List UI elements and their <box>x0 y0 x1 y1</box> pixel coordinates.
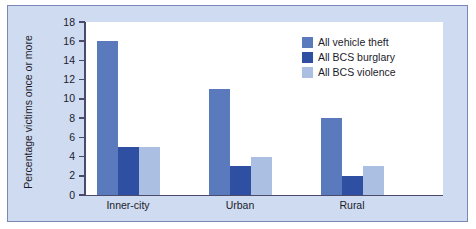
bar <box>139 147 160 195</box>
bar <box>209 89 230 195</box>
legend-swatch-vehicle-theft-icon <box>302 37 313 48</box>
y-axis-tick-label: 14 <box>63 55 75 66</box>
legend-item-label: All vehicle theft <box>318 37 389 48</box>
y-axis-tick <box>79 98 85 100</box>
y-axis-line <box>84 22 86 196</box>
legend-item-label: All BCS burglary <box>318 52 395 63</box>
chart-figure: Percentage victims once or more 02468101… <box>0 0 476 229</box>
x-axis-label: Rural <box>302 199 402 211</box>
y-axis-tick-label: 6 <box>69 132 75 143</box>
bar <box>342 176 363 195</box>
y-axis-title: Percentage victims once or more <box>22 27 34 197</box>
legend-swatch-bcs-burglary-icon <box>302 52 313 63</box>
legend-item[interactable]: All BCS violence <box>302 66 396 79</box>
y-axis-tick-label: 0 <box>69 190 75 201</box>
bar <box>251 157 272 195</box>
x-axis-label: Inner-city <box>78 199 178 211</box>
y-axis-tick-label: 18 <box>63 17 75 28</box>
bar <box>321 118 342 195</box>
y-axis-tick <box>79 156 85 158</box>
legend-item[interactable]: All BCS burglary <box>302 51 396 64</box>
chart-legend: All vehicle theftAll BCS burglaryAll BCS… <box>302 36 396 79</box>
y-axis-tick <box>79 40 85 42</box>
y-axis-tick-label: 16 <box>63 36 75 47</box>
y-axis-tick <box>79 60 85 62</box>
y-axis-tick <box>79 79 85 81</box>
x-axis-label: Urban <box>190 199 290 211</box>
bar <box>118 147 139 195</box>
y-axis-tick <box>79 194 85 196</box>
x-axis-line <box>84 195 443 197</box>
y-axis-tick-label: 4 <box>69 151 75 162</box>
legend-item-label: All BCS violence <box>318 67 396 78</box>
y-axis-tick <box>79 175 85 177</box>
bar <box>97 41 118 195</box>
y-axis-tick-label: 10 <box>63 93 75 104</box>
bar <box>363 166 384 195</box>
y-axis-tick <box>79 21 85 23</box>
y-axis-tick-label: 8 <box>69 113 75 124</box>
legend-swatch-bcs-violence-icon <box>302 67 313 78</box>
y-axis-tick <box>79 117 85 119</box>
legend-item[interactable]: All vehicle theft <box>302 36 396 49</box>
y-axis-tick <box>79 137 85 139</box>
y-axis-tick-label: 12 <box>63 74 75 85</box>
bar <box>230 166 251 195</box>
y-axis-tick-label: 2 <box>69 170 75 181</box>
